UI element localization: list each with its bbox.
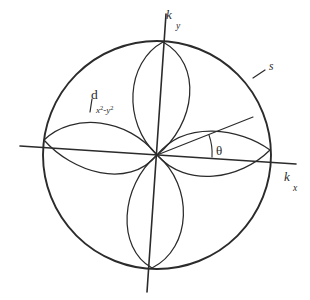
s-wave-label: s	[269, 60, 274, 72]
d-wave-lobe-top	[133, 42, 190, 155]
d-wave-subscript-group: x2-y2	[95, 104, 114, 116]
s-label-leader	[253, 70, 265, 78]
theta-label: θ	[216, 143, 222, 158]
theta-angle-arc	[209, 135, 212, 157]
kx-axis-subscript: x	[292, 183, 298, 193]
kx-axis-symbol: k	[284, 169, 290, 184]
d-wave-sup-two-b: 2	[110, 104, 113, 111]
d-wave-sub-minus-y: -y	[103, 105, 110, 115]
d-wave-label: d	[91, 87, 98, 102]
ky-axis-subscript: y	[175, 21, 181, 31]
theta-radial-line	[157, 117, 253, 155]
diagram-canvas: k y k x s d x2-y2 θ	[0, 0, 310, 300]
physics-diagram-figure: k y k x s d x2-y2 θ	[0, 0, 310, 300]
ky-axis-symbol: k	[166, 7, 172, 22]
